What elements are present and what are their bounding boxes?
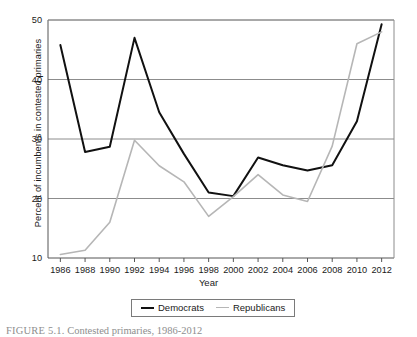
chart-area: 1020304050198619881990199219941996199820… xyxy=(0,0,417,292)
x-tick-label-1986: 1986 xyxy=(50,265,70,275)
x-tick-label-1998: 1998 xyxy=(198,265,218,275)
legend-line-democrats-icon xyxy=(141,307,154,309)
legend-item-republicans: Republicans xyxy=(216,302,285,313)
x-tick-label-1996: 1996 xyxy=(174,265,194,275)
x-tick-label-1992: 1992 xyxy=(124,265,144,275)
figure-caption: FIGURE 5.1. Contested primaries, 1986-20… xyxy=(6,325,411,336)
x-tick-label-2002: 2002 xyxy=(248,265,268,275)
x-tick-label-1988: 1988 xyxy=(75,265,95,275)
x-axis-title: Year xyxy=(0,277,417,288)
figure-caption-label: FIGURE 5.1. xyxy=(6,325,65,336)
legend-label-republicans: Republicans xyxy=(233,302,285,313)
x-tick-label-2012: 2012 xyxy=(371,265,391,275)
x-tick-label-2004: 2004 xyxy=(273,265,293,275)
x-tick-label-1990: 1990 xyxy=(100,265,120,275)
y-axis-title: Percent of incumbents in contested prima… xyxy=(33,13,43,253)
legend-label-democrats: Democrats xyxy=(158,302,204,313)
series-line-republicans xyxy=(60,32,381,255)
x-tick-label-1994: 1994 xyxy=(149,265,169,275)
y-tick-label-10: 10 xyxy=(32,253,42,263)
x-tick-label-2000: 2000 xyxy=(223,265,243,275)
x-tick-label-2008: 2008 xyxy=(322,265,342,275)
x-tick-label-2010: 2010 xyxy=(347,265,367,275)
series-line-democrats xyxy=(60,24,381,196)
x-tick-label-2006: 2006 xyxy=(297,265,317,275)
line-chart-plot: 1020304050198619881990199219941996199820… xyxy=(0,0,417,292)
legend-line-republicans-icon xyxy=(216,307,229,308)
chart-legend: Democrats Republicans xyxy=(131,299,295,317)
legend-item-democrats: Democrats xyxy=(141,302,204,313)
figure-caption-text: Contested primaries, 1986-2012 xyxy=(67,325,202,336)
figure-container: 1020304050198619881990199219941996199820… xyxy=(0,0,417,337)
